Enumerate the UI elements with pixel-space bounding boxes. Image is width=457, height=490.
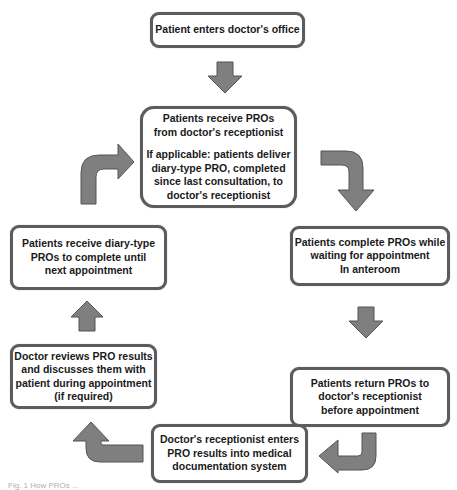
step-text: (if required)	[54, 390, 112, 404]
curved-arrow-left-up-icon	[72, 421, 144, 464]
step-text: before appointment	[321, 404, 419, 418]
step-text: Patient enters doctor's office	[155, 23, 299, 37]
step-text: doctor's receptionist	[318, 390, 421, 404]
curved-arrow-down-left-icon	[318, 432, 378, 474]
arrow-down-icon	[348, 307, 384, 339]
step-receptionist-enters: Doctor's receptionist enters PRO results…	[151, 424, 308, 483]
step-note: doctor's receptionist	[167, 189, 270, 203]
step-text: In anteroom	[340, 263, 400, 277]
step-text: next appointment	[45, 264, 133, 278]
step-enter-office: Patient enters doctor's office	[150, 12, 305, 48]
step-receive-pros: Patients receive PROs from doctor's rece…	[140, 106, 297, 208]
step-text: Patients return PROs to	[311, 377, 429, 391]
step-text: Patients complete PROs while	[295, 236, 446, 250]
step-text: from doctor's receptionist	[154, 126, 284, 140]
figure-caption: Fig. 1 How PROs ...	[8, 481, 79, 490]
step-text: waiting for appointment	[311, 249, 430, 263]
step-note: since last consultation, to	[154, 175, 283, 189]
curved-arrow-up-right-icon	[80, 143, 135, 205]
arrow-down-icon	[207, 62, 243, 94]
step-text: Doctor reviews PRO results	[14, 350, 152, 364]
step-text: Patients receive diary-type	[22, 237, 155, 251]
curved-arrow-right-down-icon	[320, 150, 375, 212]
step-receive-diary: Patients receive diary-type PROs to comp…	[10, 225, 167, 290]
step-note: diary-type PRO, completed	[151, 162, 285, 176]
step-text: and discusses them with	[21, 363, 145, 377]
step-doctor-reviews: Doctor reviews PRO results and discusses…	[10, 344, 157, 409]
step-text: Patients receive PROs	[163, 112, 274, 126]
step-text: documentation system	[172, 460, 286, 474]
step-text: PRO results into medical	[167, 447, 291, 461]
step-text: PROs to complete until	[31, 251, 147, 265]
step-text: Doctor's receptionist enters	[160, 433, 299, 447]
step-complete-pros: Patients complete PROs while waiting for…	[290, 226, 450, 286]
step-text: patient during appointment	[16, 377, 152, 391]
step-note: If applicable: patients deliver	[146, 148, 290, 162]
step-return-pros: Patients return PROs to doctor's recepti…	[290, 367, 450, 427]
arrow-up-icon	[70, 300, 104, 332]
